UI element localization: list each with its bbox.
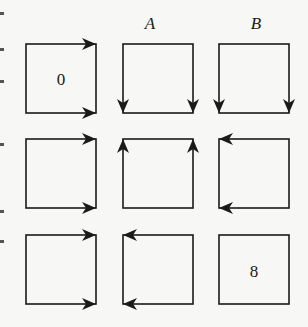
grid-boxes	[0, 0, 308, 327]
grid-box-r0c2	[219, 44, 289, 113]
grid-box-r1c2	[219, 139, 289, 208]
arrow-grid-diagram: A B 0 8	[0, 0, 308, 327]
grid-box-r2c0	[26, 235, 96, 304]
grid-box-r2c1	[123, 235, 193, 304]
grid-box-r2c2	[219, 235, 289, 304]
grid-box-r1c0	[26, 139, 96, 208]
grid-box-r1c1	[123, 139, 193, 208]
grid-box-r0c0	[26, 44, 96, 113]
grid-box-r0c1	[123, 44, 193, 113]
